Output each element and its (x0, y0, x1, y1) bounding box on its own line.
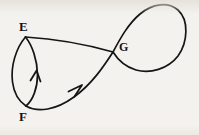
upper-edge-path (26, 37, 114, 52)
arrowhead-upright-icon (69, 85, 83, 97)
lens-left-arc-path (12, 37, 26, 106)
curve-diagram-figure: E F G (0, 0, 199, 135)
diagram-canvas (0, 0, 199, 135)
lower-edge-path (26, 52, 113, 110)
vertex-label-g: G (119, 41, 128, 53)
vertex-label-e: E (19, 20, 28, 33)
vertex-label-f: F (19, 110, 27, 123)
arrowhead-up-icon (31, 71, 41, 82)
right-loop-path (113, 5, 186, 72)
